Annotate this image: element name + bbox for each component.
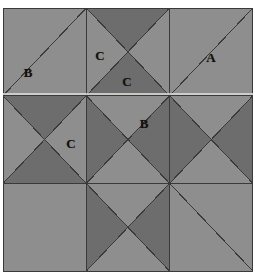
label-b-center: B bbox=[140, 117, 149, 130]
label-c-middle-left: C bbox=[66, 137, 75, 150]
tiling-figure: BCCACB bbox=[0, 0, 255, 274]
label-c-center-top: C bbox=[122, 75, 131, 88]
label-b-top-left: B bbox=[24, 66, 33, 79]
scan-highlight-streak bbox=[3, 93, 253, 95]
tile-r2-c0-square bbox=[3, 183, 86, 271]
label-a-top-right: A bbox=[206, 51, 215, 64]
tiling-canvas bbox=[0, 0, 255, 274]
label-c-top-middle: C bbox=[95, 49, 104, 62]
